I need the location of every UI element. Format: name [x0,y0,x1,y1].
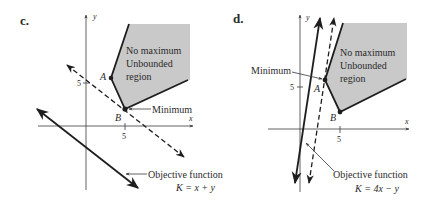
region-text-line3-c: region [126,71,152,82]
point-a-c [109,76,114,81]
region-text-line1-c: No maximum [126,45,181,56]
point-a-label-c: A [99,71,107,82]
x-axis-label-c: x [188,114,193,123]
figure-canvas: c. y x 5 5 A B No maximum Unbounded regi… [0,0,428,208]
minimum-label-d: Minimum [251,65,291,76]
objective-formula-c: K = x + y [175,182,216,193]
objective-formula-d: K = 4x − y [354,183,400,194]
panel-c: c. y x 5 5 A B No maximum Unbounded regi… [20,12,223,193]
point-a-label-d: A [313,83,321,94]
y-tick-label-c: 5 [77,79,81,88]
region-text-line2-c: Unbounded [126,58,173,69]
y-axis-label-c: y [92,12,97,21]
x-axis-label-d: x [404,117,409,126]
point-a-d [323,78,328,83]
objective-line-solid-c [37,109,138,188]
point-b-label-c: B [115,112,121,123]
x-tick-label-c: 5 [122,132,126,141]
point-b-c [122,106,127,111]
objective-label-c: Objective function [148,169,223,180]
minimum-arrow-d [292,72,322,79]
region-text-line3-d: region [340,73,366,84]
region-text-line1-d: No maximum [340,47,395,58]
y-axis-label-d: y [305,13,310,22]
objective-label-d: Objective function [333,169,408,180]
region-text-line2-d: Unbounded [340,60,387,71]
minimum-label-c: Minimum [152,104,192,115]
objective-line-solid-d [295,18,320,183]
panel-d-label: d. [233,11,243,26]
x-tick-label-d: 5 [337,135,341,144]
point-b-label-d: B [330,112,336,123]
point-b-d [338,110,343,115]
panel-c-label: c. [20,13,29,28]
panel-d: d. y x 5 5 A B No maximum Unbounded regi… [233,11,409,194]
y-tick-label-d: 5 [290,83,294,92]
objective-arrow-d [306,143,334,171]
